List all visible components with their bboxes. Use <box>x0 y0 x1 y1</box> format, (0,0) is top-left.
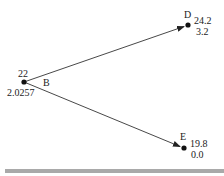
node-d-top-value: 24.2 <box>194 16 212 26</box>
node-e-name: E <box>180 132 186 142</box>
node-d-bottom-value: 3.2 <box>196 27 209 37</box>
bottom-divider-bar <box>5 169 224 173</box>
node-d-dot <box>185 22 190 27</box>
edge-b-to-e <box>24 82 180 147</box>
node-e-bottom-value: 0.0 <box>191 150 204 160</box>
node-b-name: B <box>43 78 50 88</box>
node-b-bottom-value: 2.0257 <box>7 88 35 98</box>
decision-tree-diagram: 22 B 2.0257 D 24.2 3.2 E 19.8 0.0 <box>0 0 224 176</box>
edge-b-to-d <box>24 27 184 83</box>
node-d-name: D <box>184 10 191 20</box>
node-b-top-value: 22 <box>18 69 28 79</box>
node-e-top-value: 19.8 <box>190 139 208 149</box>
node-e-dot <box>181 145 186 150</box>
node-b-dot <box>21 79 26 84</box>
